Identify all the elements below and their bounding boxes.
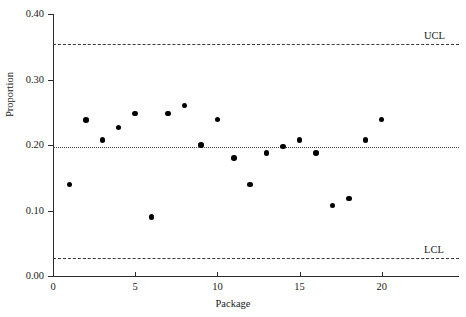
data-point xyxy=(247,182,253,188)
data-point xyxy=(100,137,106,143)
x-tick-label: 0 xyxy=(38,281,68,292)
y-tick-mark xyxy=(48,276,53,277)
data-point xyxy=(215,117,221,123)
x-tick-mark xyxy=(217,272,218,277)
data-point xyxy=(83,117,89,123)
y-axis-title: Proportion xyxy=(4,72,15,117)
x-tick-label: 15 xyxy=(285,281,315,292)
data-point xyxy=(67,182,73,188)
data-point xyxy=(280,144,286,150)
data-point xyxy=(313,150,319,156)
data-point xyxy=(132,111,138,117)
control-chart: 0.000.100.200.300.40 05101520 UCLLCL Pac… xyxy=(0,0,466,317)
data-point xyxy=(198,142,204,148)
y-axis-line xyxy=(53,14,54,277)
reference-line-ucl xyxy=(53,44,459,45)
data-point xyxy=(297,137,303,143)
y-tick-mark xyxy=(48,80,53,81)
data-point xyxy=(116,125,122,131)
data-point xyxy=(182,103,188,109)
x-tick-mark xyxy=(300,272,301,277)
y-tick-mark xyxy=(48,211,53,212)
data-point xyxy=(231,155,237,161)
data-point xyxy=(379,117,385,123)
x-tick-label: 20 xyxy=(367,281,397,292)
data-point xyxy=(149,214,155,220)
y-tick-label: 0.10 xyxy=(2,205,44,216)
data-point xyxy=(346,196,352,202)
reference-line-label-lcl: LCL xyxy=(424,244,444,255)
y-tick-label: 0.40 xyxy=(2,8,44,19)
y-tick-mark xyxy=(48,14,53,15)
x-tick-mark xyxy=(382,272,383,277)
reference-line-lcl xyxy=(53,258,459,259)
x-axis-title: Package xyxy=(0,298,466,309)
x-tick-label: 10 xyxy=(202,281,232,292)
x-tick-mark xyxy=(135,272,136,277)
x-tick-label: 5 xyxy=(120,281,150,292)
y-tick-label: 0.20 xyxy=(2,139,44,150)
reference-line-cl xyxy=(53,147,459,148)
data-point xyxy=(363,137,369,143)
reference-line-label-ucl: UCL xyxy=(424,30,445,41)
data-point xyxy=(165,111,171,117)
x-axis-line xyxy=(53,276,459,277)
data-point xyxy=(264,150,270,156)
y-tick-label: 0.00 xyxy=(2,270,44,281)
data-point xyxy=(330,203,336,209)
